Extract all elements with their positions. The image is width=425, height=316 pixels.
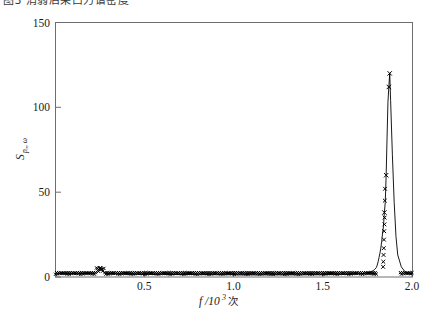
y-axis-ticks	[56, 23, 62, 278]
x-axis-title-divider: /10	[204, 295, 220, 307]
x-tick-label-05: 0.5	[137, 280, 152, 292]
data-series-line	[56, 73, 412, 275]
x-axis-title-variable: f	[199, 295, 204, 308]
x-tick-label-15: 1.5	[316, 280, 331, 292]
y-tick-label-150: 150	[33, 17, 51, 29]
y-tick-label-100: 100	[33, 101, 51, 113]
y-axis-title-symbol: S	[14, 154, 26, 160]
y-axis-tick-labels: 0 50 100 150	[33, 17, 51, 283]
y-tick-label-50: 50	[39, 186, 51, 198]
chart-figure: 0 50 100 150 0.5 1.0 1.5 2.0 f /10 3 次 S…	[0, 0, 425, 316]
x-axis-tick-labels: 0.5 1.0 1.5 2.0	[137, 280, 419, 292]
x-axis-title-unit: 次	[228, 295, 239, 307]
y-tick-label-0: 0	[44, 271, 50, 283]
x-tick-label-10: 1.0	[226, 280, 241, 292]
y-axis-title: S pₒ, ω	[14, 138, 29, 160]
y-axis-title-subscript: pₒ, ω	[20, 138, 29, 154]
x-tick-label-20: 2.0	[405, 280, 420, 292]
data-series-markers	[54, 71, 414, 276]
plot-frame	[56, 23, 413, 278]
x-axis-title-exponent: 3	[221, 293, 226, 302]
x-axis-title: f /10 3 次	[199, 293, 239, 308]
